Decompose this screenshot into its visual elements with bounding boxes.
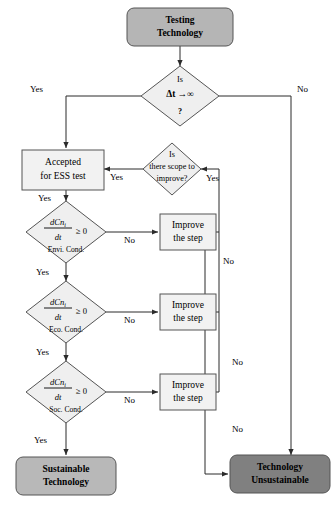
improve1-label-line2: the step [173,233,203,243]
improve3-label-line2: the step [173,393,203,403]
edge-time-no [219,96,291,455]
node-decision-time: Is Δt→∞ ? [141,66,219,126]
eco-operator: ≥ 0 [76,306,87,316]
improve1-label-line1: Improve [172,220,204,230]
label-soc-yes: Yes [34,435,48,445]
arrow-infinity-icon: →∞ [177,89,194,99]
node-sustainable: Sustainable Technology [16,457,116,495]
label-scope-yes-left: Yes [110,172,124,182]
delta-t-text: Δt [166,89,176,99]
label-time-yes: Yes [30,84,44,94]
unsustainable-label-line1: Technology [257,462,303,472]
label-merge-no-3: No [232,424,243,434]
node-cond-soc: dCni dt ≥ 0 Soc. Cond. [26,361,106,423]
label-eco-yes: Yes [36,347,50,357]
node-accepted: Accepted for ESS test [22,150,104,190]
label-scope-yes-right: Yes [206,173,220,183]
label-time-no: No [297,84,308,94]
unsustainable-label-line2: Unsustainable [251,475,309,485]
node-improve-2: Improve the step [160,294,216,330]
node-unsustainable: Technology Unsustainable [230,455,330,493]
scope-label-line2: there scope to [149,162,194,171]
edge-time-yes [66,96,141,148]
soc-denominator: dt [55,392,62,402]
eco-numerator: dCni [50,297,66,308]
envi-denominator: dt [55,232,62,242]
envi-operator: ≥ 0 [76,226,87,236]
soc-numerator: dCni [50,377,66,388]
node-improve-1: Improve the step [160,214,216,250]
node-cond-eco: dCni dt ≥ 0 Eco. Cond. [26,281,106,343]
scope-label-line1: Is [169,150,175,159]
flowchart-canvas: Testing Technology Is Δt→∞ ? Yes No Is t… [0,0,335,510]
label-soc-no: No [124,395,135,405]
scope-label-line3: improve? [157,174,188,183]
start-label-line2: Technology [157,28,203,38]
improve2-label-line1: Improve [172,300,204,310]
start-label-line1: Testing [165,15,194,25]
sustainable-label-line1: Sustainable [43,464,90,474]
label-accepted-yes: Yes [38,193,52,203]
soc-operator: ≥ 0 [76,386,87,396]
envi-numerator: dCni [50,217,66,228]
label-envi-no: No [124,235,135,245]
eco-caption: Eco. Cond. [49,325,83,334]
soc-caption: Soc. Cond. [49,405,83,414]
improve3-label-line1: Improve [172,380,204,390]
label-merge-no-2: No [232,357,243,367]
time-label-line1: Is [177,75,183,84]
accepted-label-line1: Accepted [45,157,81,167]
label-eco-no: No [124,315,135,325]
eco-denominator: dt [55,312,62,322]
accepted-label-line2: for ESS test [40,171,86,181]
label-envi-yes: Yes [36,267,50,277]
time-label-line2: Δt→∞ [166,89,194,99]
node-cond-envi: dCni dt ≥ 0 Envi. Cond. [26,201,106,263]
node-improve-3: Improve the step [160,374,216,410]
envi-caption: Envi. Cond. [48,245,85,254]
node-start: Testing Technology [127,8,233,46]
edge-scope-yes-right [201,169,219,172]
node-scope: Is there scope to improve? [143,143,201,195]
sustainable-label-line2: Technology [43,477,89,487]
label-merge-no-1: No [223,256,234,266]
time-label-line3: ? [178,107,182,116]
improve2-label-line2: the step [173,313,203,323]
